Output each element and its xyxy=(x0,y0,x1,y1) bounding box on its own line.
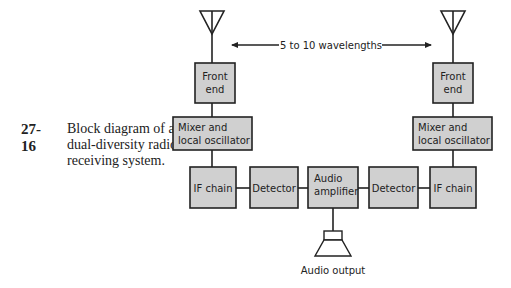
right-if-chain-block: IF chain xyxy=(430,167,476,208)
left-mixer-block: Mixer and local oscillator xyxy=(173,117,252,150)
svg-text:Mixer and: Mixer and xyxy=(178,122,227,133)
svg-text:local oscillator: local oscillator xyxy=(418,135,491,146)
svg-text:IF chain: IF chain xyxy=(434,183,473,194)
block-diagram: 5 to 10 wavelengths Front end Mixer and … xyxy=(0,0,511,288)
left-front-end-block: Front end xyxy=(195,63,235,103)
right-front-end-block: Front end xyxy=(433,63,473,103)
svg-text:Front: Front xyxy=(202,71,227,82)
left-antenna-icon xyxy=(200,11,224,63)
svg-text:IF chain: IF chain xyxy=(194,183,233,194)
left-detector-block: Detector xyxy=(250,167,298,208)
svg-text:Detector: Detector xyxy=(252,183,296,194)
svg-text:end: end xyxy=(206,84,225,95)
svg-text:amplifier: amplifier xyxy=(314,186,359,197)
speaker-icon xyxy=(315,231,351,256)
audio-amplifier-block: Audio amplifier xyxy=(308,167,359,208)
svg-text:Audio: Audio xyxy=(314,173,342,184)
svg-text:Mixer and: Mixer and xyxy=(418,122,467,133)
right-detector-block: Detector xyxy=(369,167,418,208)
right-mixer-block: Mixer and local oscillator xyxy=(413,117,492,150)
svg-text:local oscillator: local oscillator xyxy=(178,135,251,146)
right-antenna-icon xyxy=(441,11,465,63)
svg-text:Front: Front xyxy=(440,71,465,82)
svg-text:end: end xyxy=(444,84,463,95)
spacing-label: 5 to 10 wavelengths xyxy=(280,40,382,51)
audio-output-label: Audio output xyxy=(301,265,366,276)
left-if-chain-block: IF chain xyxy=(190,167,236,208)
svg-text:Detector: Detector xyxy=(372,183,416,194)
spacing-arrow: 5 to 10 wavelengths xyxy=(231,40,432,51)
